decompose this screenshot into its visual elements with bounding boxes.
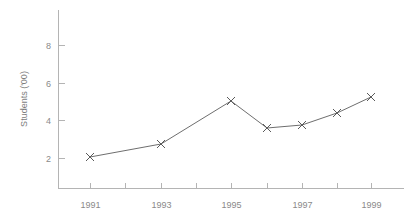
x-tick-label-1997: 1997 (292, 200, 312, 210)
x-tick-label-1995: 1995 (221, 200, 241, 210)
data-point-1991 (86, 153, 94, 161)
y-axis-title: Students ('00) (19, 71, 29, 127)
data-point-1998 (333, 109, 341, 117)
y-tick-label-6: 6 (46, 79, 51, 89)
line-chart: 8 6 4 2 1991 1993 1995 1997 1999 Student… (0, 0, 416, 224)
y-tick-labels: 8 6 4 2 (46, 41, 51, 164)
data-point-1999 (367, 93, 375, 101)
x-tick-label-1991: 1991 (80, 200, 100, 210)
y-tick-label-2: 2 (46, 154, 51, 164)
data-point-1993 (157, 140, 165, 148)
x-tick-marks (91, 183, 372, 189)
chart-canvas: 8 6 4 2 1991 1993 1995 1997 1999 Student… (0, 0, 416, 224)
x-tick-label-1999: 1999 (361, 200, 381, 210)
series-line-students (90, 97, 371, 157)
y-tick-label-4: 4 (46, 116, 51, 126)
axes-group (59, 10, 405, 189)
y-tick-label-8: 8 (46, 41, 51, 51)
data-point-1995 (227, 97, 235, 105)
x-tick-label-1993: 1993 (151, 200, 171, 210)
y-tick-marks (59, 46, 65, 159)
x-tick-labels: 1991 1993 1995 1997 1999 (80, 200, 381, 210)
data-point-markers (86, 93, 375, 161)
